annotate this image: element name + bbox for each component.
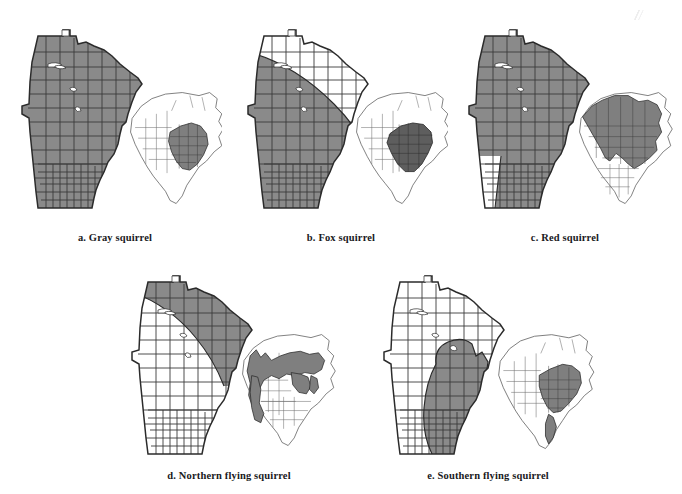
panel-a-gray-squirrel: [8, 22, 222, 222]
north-america-inset-d: [243, 335, 336, 446]
panel-c-red-squirrel: [455, 22, 675, 222]
north-america-inset-e: [499, 335, 594, 449]
map-group-a: [8, 22, 222, 222]
map-group-b: [234, 22, 448, 222]
north-america-inset-b: [357, 93, 448, 204]
panel-a-caption: a. Gray squirrel: [8, 232, 222, 243]
panel-e-caption: e. Southern flying squirrel: [370, 470, 606, 481]
panel-d-northern-flying-squirrel: [118, 268, 340, 464]
scan-artifact: [630, 10, 646, 20]
map-group-c: [455, 22, 675, 222]
squirrel-distribution-figure: a. Gray squirrel: [0, 0, 682, 494]
north-america-inset-a: [131, 93, 222, 204]
map-group-e: [370, 268, 606, 464]
panel-b-fox-squirrel: [234, 22, 448, 222]
panel-d-caption: d. Northern flying squirrel: [118, 470, 340, 481]
panel-e-southern-flying-squirrel: [370, 268, 606, 464]
map-group-d: [118, 268, 340, 464]
panel-c-caption: c. Red squirrel: [455, 232, 675, 243]
north-america-inset-c: [580, 93, 673, 204]
panel-b-caption: b. Fox squirrel: [234, 232, 448, 243]
